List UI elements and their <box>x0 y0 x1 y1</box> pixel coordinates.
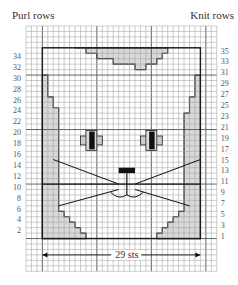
row-number-right: 1 <box>221 232 225 241</box>
row-number-right: 21 <box>221 123 229 132</box>
row-number-right: 19 <box>221 134 229 143</box>
row-number-left: 30 <box>13 74 21 83</box>
row-number-left: 10 <box>13 183 21 192</box>
row-number-right: 27 <box>221 90 229 99</box>
row-number-left: 14 <box>13 161 21 170</box>
row-number-left: 20 <box>13 128 21 137</box>
row-number-right: 9 <box>221 188 225 197</box>
row-number-left: 28 <box>13 85 21 94</box>
row-number-left: 4 <box>17 215 21 224</box>
row-number-left: 32 <box>13 63 21 72</box>
arrow-left-icon <box>42 252 47 257</box>
row-number-right: 17 <box>221 145 229 154</box>
row-number-right: 5 <box>221 210 225 219</box>
row-number-left: 8 <box>17 194 21 203</box>
row-number-left: 24 <box>13 106 21 115</box>
row-number-right: 13 <box>221 166 229 175</box>
stitch-count-label: 29 sts <box>115 249 138 260</box>
row-number-right: 29 <box>221 79 229 88</box>
row-number-right: 15 <box>221 156 229 165</box>
row-number-right: 23 <box>221 112 229 121</box>
row-number-left: 6 <box>17 205 21 214</box>
motif-frame <box>42 48 200 239</box>
row-number-left: 12 <box>13 172 21 181</box>
row-number-left: 16 <box>13 150 21 159</box>
row-number-left: 18 <box>13 139 21 148</box>
row-number-right: 31 <box>221 68 229 77</box>
nose <box>119 168 135 173</box>
row-number-right: 35 <box>221 47 229 56</box>
row-number-right: 33 <box>221 57 229 66</box>
row-number-left: 2 <box>17 226 21 235</box>
row-number-right: 3 <box>221 221 225 230</box>
eye-pupil <box>149 132 154 150</box>
row-number-left: 22 <box>13 117 21 126</box>
arrow-right-icon <box>195 252 200 257</box>
row-number-right: 25 <box>221 101 229 110</box>
row-number-right: 11 <box>221 177 229 186</box>
row-number-left: 26 <box>13 96 21 105</box>
eye-pupil <box>89 132 94 150</box>
row-number-left: 34 <box>13 52 21 61</box>
whisker <box>59 190 119 206</box>
knitting-chart: 29 sts3432302826242220181614121086423533… <box>0 0 238 285</box>
row-number-right: 7 <box>221 199 225 208</box>
